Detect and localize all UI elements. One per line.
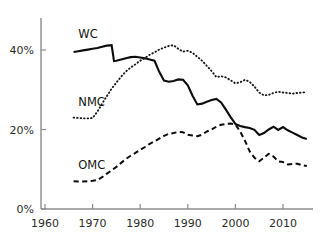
y-tick-label: 20%	[10, 124, 34, 137]
y-tick-label: 40%	[10, 44, 34, 57]
x-axis-tick-labels: 196019701980199020002010	[31, 217, 297, 230]
y-axis-ticks	[41, 50, 46, 209]
series-line-nmc	[74, 45, 307, 118]
x-tick-label: 1980	[126, 217, 154, 230]
y-tick-label: 0%	[17, 203, 34, 216]
x-axis-ticks	[45, 204, 283, 209]
x-tick-label: 2000	[221, 217, 249, 230]
x-tick-label: 1990	[174, 217, 202, 230]
series-label-wc: WC	[78, 27, 97, 41]
line-chart: 0%20%40% 196019701980199020002010 WCNMCO…	[0, 0, 323, 242]
x-tick-label: 2010	[269, 217, 297, 230]
series-line-omc	[74, 124, 307, 182]
y-axis-tick-labels: 0%20%40%	[10, 44, 34, 216]
x-tick-label: 1960	[31, 217, 59, 230]
x-tick-label: 1970	[79, 217, 107, 230]
axes-group	[41, 18, 313, 209]
series-label-omc: OMC	[78, 158, 105, 172]
series-group	[74, 45, 307, 181]
chart-container: 0%20%40% 196019701980199020002010 WCNMCO…	[0, 0, 323, 242]
series-label-nmc: NMC	[78, 95, 105, 109]
